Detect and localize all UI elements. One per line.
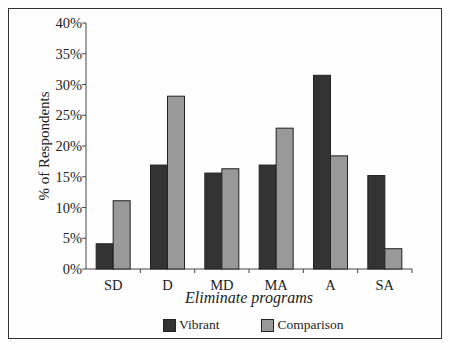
- legend-label-vibrant: Vibrant: [179, 317, 219, 333]
- bar-vibrant-md: [205, 173, 222, 269]
- bar-comparison-a: [331, 156, 348, 269]
- bar-vibrant-sa: [368, 176, 385, 269]
- y-tick-label: 35%: [55, 46, 82, 62]
- x-tick-label: D: [162, 277, 172, 293]
- y-tick-label: 5%: [63, 230, 82, 246]
- bar-vibrant-ma: [259, 165, 276, 269]
- x-axis-label: Eliminate programs: [185, 289, 313, 307]
- bar-vibrant-a: [314, 75, 331, 269]
- y-tick-label: 30%: [55, 77, 82, 93]
- legend-swatch-vibrant: [163, 319, 176, 332]
- bar-comparison-sd: [113, 201, 130, 269]
- legend-item-vibrant: Vibrant: [163, 317, 219, 333]
- y-axis-label: % of Respondents: [36, 91, 53, 200]
- bar-comparison-md: [222, 169, 239, 269]
- legend-label-comparison: Comparison: [277, 317, 343, 333]
- y-tick-label: 0%: [63, 261, 82, 277]
- x-tick-label: SA: [376, 277, 395, 293]
- bar-comparison-sa: [385, 249, 402, 269]
- bar-comparison-ma: [276, 128, 293, 269]
- y-tick-label: 25%: [55, 107, 82, 123]
- x-tick-label: SD: [104, 277, 123, 293]
- y-tick-label: 10%: [55, 200, 82, 216]
- bar-comparison-d: [168, 96, 185, 269]
- legend-swatch-comparison: [261, 319, 274, 332]
- legend: Vibrant Comparison: [163, 317, 385, 333]
- bar-vibrant-sd: [96, 244, 113, 269]
- y-tick-label: 15%: [55, 169, 82, 185]
- x-tick-label: A: [325, 277, 336, 293]
- bar-vibrant-d: [151, 165, 168, 269]
- legend-item-comparison: Comparison: [261, 317, 343, 333]
- y-tick-label: 40%: [55, 15, 82, 31]
- y-tick-label: 20%: [55, 138, 82, 154]
